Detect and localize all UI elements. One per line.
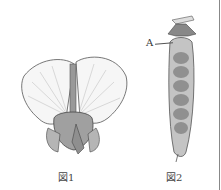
figure-1-caption: 図1: [58, 169, 74, 184]
figure-2-caption: 図2: [166, 169, 182, 184]
figure-1-flower: [18, 54, 128, 159]
pea-flower-illustration: [18, 54, 128, 159]
page-edge-line: [219, 0, 220, 190]
label-a: A: [146, 37, 153, 48]
pea-pod-illustration: [158, 12, 208, 162]
figure-2-pod: [158, 12, 208, 162]
